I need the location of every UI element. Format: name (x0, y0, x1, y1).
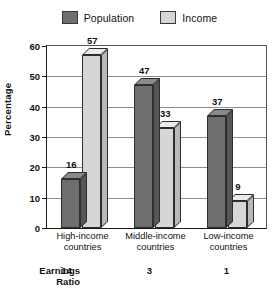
y-axis-title: Percentage (2, 83, 13, 136)
bar-value-label: 37 (212, 96, 223, 107)
bar-side-face (226, 109, 233, 228)
bar-population-middle-income-countries: 47 (134, 85, 153, 228)
earnings-ratio-value-high-income: 14 (23, 265, 111, 276)
legend-label-population: Population (84, 12, 135, 24)
bar-front-face (207, 116, 226, 228)
bar-value-label: 16 (66, 159, 77, 170)
y-axis-tick (42, 228, 47, 229)
bar-value-label: 9 (235, 181, 240, 192)
earnings-ratio-label-line2: Ratio (18, 276, 80, 287)
bar-side-face (80, 173, 87, 228)
category-label-line2: countries (185, 242, 273, 253)
category-label-line1: Low-income (185, 231, 273, 242)
y-axis-tick-label: 20 (29, 162, 40, 173)
y-axis-tick (42, 76, 47, 77)
y-axis-tick (42, 137, 47, 138)
y-axis-tick-label: 50 (29, 71, 40, 82)
bar-front-face (134, 85, 153, 228)
bar-side-face (153, 79, 160, 228)
legend-label-income: Income (182, 12, 217, 24)
y-axis-tick-label: 30 (29, 132, 40, 143)
bar-population-low-income-countries: 37 (207, 116, 226, 228)
y-axis-tick (42, 167, 47, 168)
x-axis-category-low-income: Low-income countries (185, 231, 273, 253)
bar-chart: Population Income Percentage 01020304050… (0, 0, 279, 295)
legend-entry-population: Population (62, 11, 135, 24)
y-axis-tick (42, 107, 47, 108)
plot-area: 010203040506016574733379 (46, 45, 267, 229)
y-axis-tick (42, 198, 47, 199)
earnings-ratio-value-low-income: 1 (183, 265, 271, 276)
legend-swatch-icon (160, 11, 176, 24)
y-axis-tick (42, 46, 47, 47)
earnings-ratio-value-middle-income: 3 (106, 265, 194, 276)
chart-legend: Population Income (0, 11, 279, 24)
bar-value-label: 47 (139, 65, 150, 76)
bar-front-face (61, 179, 80, 228)
bar-value-label: 33 (160, 108, 171, 119)
y-axis-tick-label: 60 (29, 41, 40, 52)
bar-side-face (101, 49, 108, 228)
y-axis-tick-label: 10 (29, 192, 40, 203)
legend-swatch-icon (62, 11, 78, 24)
legend-entry-income: Income (160, 11, 217, 24)
y-axis-tick-label: 40 (29, 101, 40, 112)
bar-side-face (174, 121, 181, 228)
bar-value-label: 57 (87, 35, 98, 46)
bar-population-high-income-countries: 16 (61, 179, 80, 228)
